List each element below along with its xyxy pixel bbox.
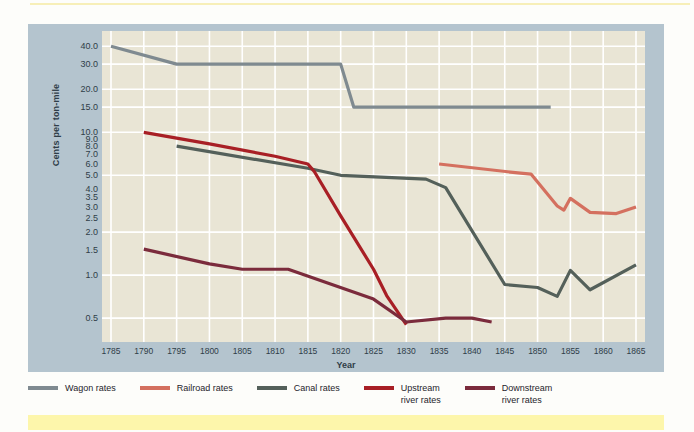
legend-item[interactable]: Wagon rates <box>28 382 116 394</box>
chart-page: Cents per ton-mile 40.030.020.015.010.09… <box>0 0 694 432</box>
y-tick-label: 0.5 <box>56 313 98 323</box>
y-tick-label: 5.0 <box>56 170 98 180</box>
x-tick-label: 1825 <box>364 346 383 356</box>
plot-area <box>102 31 645 342</box>
x-tick-label: 1845 <box>495 346 514 356</box>
x-tick-label: 1835 <box>430 346 449 356</box>
y-tick-label: 40.0 <box>56 41 98 51</box>
x-tick-label: 1815 <box>298 346 317 356</box>
legend-item[interactable]: Upstreamriver rates <box>364 382 441 406</box>
x-tick-label: 1805 <box>233 346 252 356</box>
y-tick-label: 7.0 <box>56 149 98 159</box>
y-tick-label: 3.0 <box>56 202 98 212</box>
x-tick-label: 1820 <box>331 346 350 356</box>
legend-label: Upstreamriver rates <box>401 382 441 406</box>
x-tick-label: 1795 <box>167 346 186 356</box>
chart-panel: Cents per ton-mile 40.030.020.015.010.09… <box>28 24 664 372</box>
x-tick-label: 1850 <box>528 346 547 356</box>
y-tick-label: 6.0 <box>56 159 98 169</box>
x-tick-label: 1800 <box>200 346 219 356</box>
top-rule-decoration <box>30 3 690 5</box>
bottom-band-decoration <box>28 415 664 430</box>
x-axis-title: Year <box>28 360 664 370</box>
legend-swatch <box>140 386 170 390</box>
x-tick-label: 1830 <box>397 346 416 356</box>
legend-swatch <box>257 386 287 390</box>
legend-label: Downstreamriver rates <box>502 382 553 406</box>
chart-svg <box>102 31 645 342</box>
x-tick-label: 1790 <box>134 346 153 356</box>
y-tick-label: 1.5 <box>56 245 98 255</box>
legend-item[interactable]: Railroad rates <box>140 382 233 394</box>
x-tick-label: 1855 <box>561 346 580 356</box>
legend-item[interactable]: Canal rates <box>257 382 340 394</box>
legend-label: Wagon rates <box>65 382 116 394</box>
legend-label: Canal rates <box>294 382 340 394</box>
y-tick-label: 3.5 <box>56 192 98 202</box>
legend-swatch <box>465 386 495 390</box>
y-tick-label: 15.0 <box>56 102 98 112</box>
legend-item[interactable]: Downstreamriver rates <box>465 382 553 406</box>
legend-label: Railroad rates <box>177 382 233 394</box>
legend-swatch <box>364 386 394 390</box>
y-tick-label: 2.0 <box>56 227 98 237</box>
x-tick-label: 1785 <box>102 346 121 356</box>
chart-legend: Wagon ratesRailroad ratesCanal ratesUpst… <box>28 382 664 412</box>
y-tick-label: 30.0 <box>56 59 98 69</box>
x-tick-label: 1860 <box>594 346 613 356</box>
legend-swatch <box>28 386 58 390</box>
y-tick-label: 20.0 <box>56 84 98 94</box>
x-tick-label: 1810 <box>266 346 285 356</box>
x-tick-label: 1840 <box>462 346 481 356</box>
y-tick-label: 1.0 <box>56 270 98 280</box>
y-tick-label: 2.5 <box>56 213 98 223</box>
x-axis-ticks: 1785179017951800180518101815182018251830… <box>102 346 645 360</box>
x-tick-label: 1865 <box>627 346 646 356</box>
y-axis-ticks: 40.030.020.015.010.09.08.07.06.05.04.03.… <box>50 31 98 342</box>
